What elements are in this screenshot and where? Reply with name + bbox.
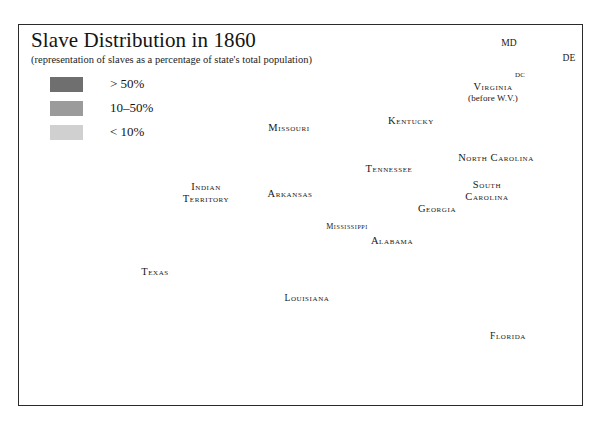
map-label-indian-territory-line2: Territory	[183, 192, 229, 204]
map-label-virginia-line1: Virginia	[468, 81, 518, 93]
map-legend: > 50% 10–50% < 10%	[50, 72, 153, 144]
map-label-tennessee: Tennessee	[366, 163, 413, 174]
map-label-louisiana: Louisiana	[284, 293, 329, 303]
map-label-virginia: Virginia (before W.V.)	[468, 81, 518, 104]
map-label-south-carolina-line2: Carolina	[465, 190, 508, 202]
map-label-virginia-note: (before W.V.)	[468, 92, 518, 104]
legend-label-10-to-50: 10–50%	[110, 100, 153, 116]
map-label-florida: Florida	[490, 331, 526, 341]
map-label-south-carolina-line1: South	[465, 179, 508, 191]
map-label-kentucky: Kentucky	[388, 115, 434, 126]
legend-swatch-under-10	[50, 125, 83, 140]
legend-swatch-10-to-50	[50, 101, 83, 116]
map-label-maryland: MD	[501, 38, 517, 48]
legend-swatch-over-50	[50, 77, 83, 92]
legend-label-over-50: > 50%	[110, 76, 144, 92]
map-label-indian-territory: Indian Territory	[183, 181, 229, 204]
map-label-mississippi: Mississippi	[326, 222, 368, 231]
map-label-alabama: Alabama	[371, 235, 413, 246]
legend-item-10-to-50: 10–50%	[50, 96, 153, 120]
map-label-north-carolina: North Carolina	[458, 152, 534, 163]
legend-item-under-10: < 10%	[50, 120, 153, 144]
map-label-texas: Texas	[141, 266, 169, 277]
page-subtitle: (representation of slaves as a percentag…	[31, 53, 331, 66]
page-title: Slave Distribution in 1860	[31, 28, 331, 52]
map-label-delaware: DE	[562, 53, 575, 63]
map-label-district-of-columbia: DC	[515, 71, 525, 79]
map-label-missouri: Missouri	[268, 122, 309, 133]
map-label-georgia: Georgia	[418, 203, 456, 214]
title-block: Slave Distribution in 1860 (representati…	[31, 28, 331, 66]
legend-label-under-10: < 10%	[110, 124, 144, 140]
legend-item-over-50: > 50%	[50, 72, 153, 96]
map-label-south-carolina: South Carolina	[465, 179, 508, 202]
map-label-arkansas: Arkansas	[267, 188, 312, 199]
map-page: Slave Distribution in 1860 (representati…	[0, 0, 602, 430]
map-label-indian-territory-line1: Indian	[183, 181, 229, 193]
